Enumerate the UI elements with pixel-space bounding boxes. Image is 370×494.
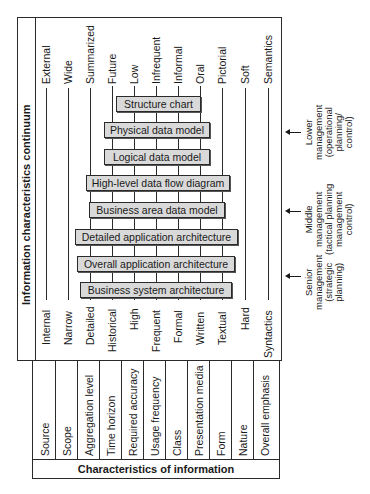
label-infrequent: Infrequent xyxy=(150,37,162,84)
label-semantics: Semantics xyxy=(262,35,274,84)
model-overall-application-architecture: Overall application architecture xyxy=(77,256,235,272)
model-physical-data-model: Physical data model xyxy=(104,122,210,138)
lower-management-label: Lower management (operational planning/ … xyxy=(304,105,354,160)
model-logical-data-model: Logical data model xyxy=(104,149,210,165)
arrow-senior-management xyxy=(289,276,301,277)
characteristics-table: Characteristics of information Source Sc… xyxy=(32,360,280,479)
model-business-system-architecture: Business system architecture xyxy=(80,282,232,298)
label-formal: Formal xyxy=(172,310,184,343)
label-detailed: Detailed xyxy=(84,306,96,345)
continuum-line xyxy=(46,88,47,300)
label-summarized: Summarized xyxy=(84,25,96,84)
model-high-level-dfd: High-level data flow diagram xyxy=(86,175,230,191)
label-written: Written xyxy=(194,312,206,345)
char-time-horizon: Time horizon xyxy=(105,396,117,456)
model-detailed-application-architecture: Detailed application architecture xyxy=(75,229,238,245)
label-oral: Oral xyxy=(194,64,206,84)
char-scope: Scope xyxy=(61,426,73,456)
label-textual: Textual xyxy=(216,312,228,345)
arrow-middle-management xyxy=(289,211,301,212)
label-pictorial: Pictorial xyxy=(216,47,228,84)
label-frequent: Frequent xyxy=(150,310,162,352)
arrow-lower-management xyxy=(289,132,301,133)
label-wide: Wide xyxy=(62,60,74,84)
char-class: Class xyxy=(171,430,183,456)
label-external: External xyxy=(40,45,52,84)
senior-management-label: Senior management (strategic planning) xyxy=(304,255,344,310)
char-presentation-media: Presentation media xyxy=(193,366,205,456)
characteristics-title: Characteristics of information xyxy=(33,463,279,475)
continuum-line xyxy=(68,88,69,300)
char-usage-frequency: Usage frequency xyxy=(149,377,161,456)
middle-management-label: Middle management (tactical planning man… xyxy=(304,184,354,255)
title-column-divider xyxy=(35,17,36,361)
label-high: High xyxy=(128,308,140,330)
label-narrow: Narrow xyxy=(62,311,74,345)
label-future: Future xyxy=(106,54,118,84)
char-form: Form xyxy=(215,432,227,457)
char-aggregation-level: Aggregation level xyxy=(83,375,95,456)
char-source: Source xyxy=(39,423,51,456)
continuum-line xyxy=(268,88,269,300)
label-low: Low xyxy=(128,65,140,84)
model-business-area-data-model: Business area data model xyxy=(89,202,225,218)
label-informal: Informal xyxy=(172,46,184,84)
model-structure-chart: Structure chart xyxy=(116,96,201,112)
label-historical: Historical xyxy=(106,309,118,352)
label-soft: Soft xyxy=(239,65,251,84)
label-hard: Hard xyxy=(239,307,251,330)
char-overall-emphasis: Overall emphasis xyxy=(259,375,271,456)
continuum-line xyxy=(245,88,246,300)
continuum-title: Information characteristics continuum xyxy=(20,105,32,305)
char-required-accuracy: Required accuracy xyxy=(127,368,139,456)
label-internal: Internal xyxy=(40,310,52,345)
char-nature: Nature xyxy=(237,424,249,456)
label-syntactics: Syntactics xyxy=(262,310,274,358)
